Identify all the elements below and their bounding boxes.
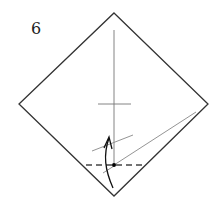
reference-point-dot	[112, 163, 116, 167]
fold-up-arrow	[106, 138, 113, 188]
paper-square-outline	[19, 13, 208, 196]
short-reference-line-lower	[103, 166, 114, 173]
diagonal-reference-line	[114, 112, 196, 165]
origami-diagram	[0, 0, 223, 205]
